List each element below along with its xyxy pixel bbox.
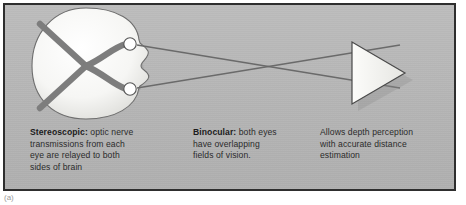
figure-sublabel: (a) — [4, 193, 14, 202]
figure-container: Stereoscopic: optic nerve transmissions … — [0, 0, 466, 205]
caption-depth-body: Allows depth perception with accurate di… — [320, 127, 413, 160]
diagram-artwork — [0, 0, 466, 205]
caption-stereoscopic-lead: Stereoscopic: — [30, 127, 88, 137]
caption-binocular: Binocular: both eyes have overlapping fi… — [193, 127, 311, 162]
caption-binocular-lead: Binocular: — [193, 127, 236, 137]
eye-upper — [124, 38, 136, 50]
caption-stereoscopic: Stereoscopic: optic nerve transmissions … — [30, 127, 182, 173]
eye-lower — [124, 83, 136, 95]
caption-depth-perception: Allows depth perception with accurate di… — [320, 127, 448, 162]
